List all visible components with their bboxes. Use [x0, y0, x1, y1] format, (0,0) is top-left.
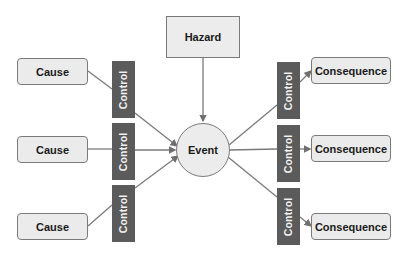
control-label: Control	[118, 194, 130, 233]
cause-node-3: Cause	[17, 213, 88, 240]
cause-node-2: Cause	[17, 136, 88, 163]
hazard-label: Hazard	[185, 31, 222, 43]
hazard-node: Hazard	[166, 16, 240, 58]
connector-control1-event	[135, 113, 177, 146]
left-control-2: Control	[112, 123, 135, 180]
right-control-3: Control	[277, 188, 300, 245]
cause-label: Cause	[36, 66, 69, 78]
connector-control1-consequence	[300, 71, 311, 82]
event-node: Event	[176, 123, 230, 177]
connector-event-control3	[228, 157, 277, 197]
cause-node-1: Cause	[17, 58, 88, 85]
control-label: Control	[283, 134, 295, 173]
cause-label: Cause	[36, 144, 69, 156]
consequence-label: Consequence	[315, 221, 387, 233]
right-control-2: Control	[277, 125, 300, 182]
connector-event-control1	[229, 105, 277, 145]
left-control-1: Control	[112, 61, 135, 118]
control-label: Control	[118, 132, 130, 171]
control-label: Control	[283, 197, 295, 236]
consequence-label: Consequence	[315, 65, 387, 77]
cause-label: Cause	[36, 221, 69, 233]
connector-event-control2	[230, 149, 277, 150]
right-control-1: Control	[277, 62, 300, 119]
connector-control3-event	[135, 156, 178, 188]
left-control-3: Control	[112, 185, 135, 242]
consequence-node-3: Consequence	[311, 213, 391, 240]
connector-cause3-control	[88, 205, 112, 226]
connector-control3-consequence	[300, 217, 311, 226]
consequence-label: Consequence	[315, 143, 387, 155]
control-label: Control	[118, 70, 130, 109]
control-label: Control	[283, 71, 295, 110]
consequence-node-1: Consequence	[311, 57, 391, 84]
consequence-node-2: Consequence	[311, 135, 391, 162]
event-label: Event	[188, 144, 218, 156]
connector-cause1-control	[88, 71, 112, 89]
bowtie-diagram: Hazard Cause Cause Cause Control Control…	[0, 0, 407, 255]
